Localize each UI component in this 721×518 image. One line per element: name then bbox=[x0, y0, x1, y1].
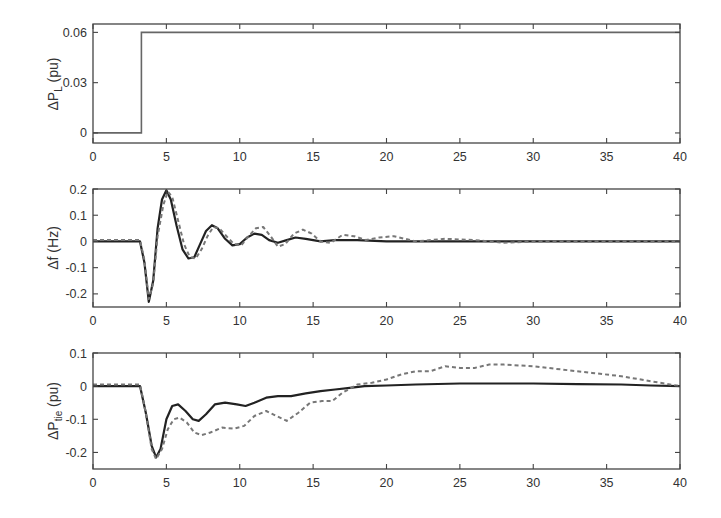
load-step-panel: ΔPL (pu) 051015202530354000.030.06 bbox=[45, 24, 687, 164]
x-tick-label: 20 bbox=[380, 314, 394, 328]
y-tick-label: 0.2 bbox=[70, 183, 87, 197]
series-solid bbox=[93, 384, 680, 458]
y-tick-label: -0.2 bbox=[65, 287, 87, 301]
y-axis-label: Δf (Hz) bbox=[45, 226, 61, 270]
series-solid bbox=[93, 190, 680, 301]
x-tick-label: 40 bbox=[673, 314, 687, 328]
x-tick-label: 25 bbox=[453, 150, 467, 164]
frequency-deviation-panel: Δf (Hz) 0510152025303540-0.2-0.100.10.2 bbox=[45, 183, 687, 329]
y-tick-label: 0.06 bbox=[63, 26, 87, 40]
figure: ΔPL (pu) 051015202530354000.030.06 Δf (H… bbox=[0, 0, 721, 518]
x-tick-label: 35 bbox=[600, 314, 614, 328]
series-load-step bbox=[93, 32, 680, 132]
x-tick-label: 10 bbox=[233, 314, 247, 328]
x-tick-label: 40 bbox=[673, 150, 687, 164]
x-tick-label: 15 bbox=[306, 476, 320, 490]
axes-box bbox=[93, 353, 680, 469]
y-tick-label: 0.03 bbox=[63, 76, 87, 90]
tie-line-power-panel: ΔPtie (pu) 0510152025303540-0.2-0.100.1 bbox=[45, 347, 687, 491]
y-tick-label: -0.1 bbox=[65, 413, 87, 427]
x-tick-label: 30 bbox=[526, 476, 540, 490]
y-tick-label: 0 bbox=[80, 235, 87, 249]
x-tick-label: 15 bbox=[306, 314, 320, 328]
series-dashed bbox=[93, 365, 680, 460]
x-tick-label: 20 bbox=[380, 476, 394, 490]
x-tick-label: 0 bbox=[90, 476, 97, 490]
x-tick-label: 10 bbox=[233, 476, 247, 490]
y-tick-label: 0 bbox=[80, 380, 87, 394]
x-tick-label: 25 bbox=[453, 314, 467, 328]
x-tick-label: 25 bbox=[453, 476, 467, 490]
x-tick-label: 5 bbox=[163, 314, 170, 328]
y-axis-label: ΔPL (pu) bbox=[45, 57, 64, 110]
x-tick-label: 5 bbox=[163, 150, 170, 164]
y-axis-label: ΔPtie (pu) bbox=[45, 382, 64, 440]
y-tick-label: 0.1 bbox=[70, 209, 87, 223]
x-tick-label: 35 bbox=[600, 476, 614, 490]
x-tick-label: 0 bbox=[90, 314, 97, 328]
x-tick-label: 30 bbox=[526, 314, 540, 328]
x-tick-label: 30 bbox=[526, 150, 540, 164]
x-tick-label: 20 bbox=[380, 150, 394, 164]
y-tick-label: -0.2 bbox=[65, 446, 87, 460]
x-tick-label: 10 bbox=[233, 150, 247, 164]
x-tick-label: 5 bbox=[163, 476, 170, 490]
x-tick-label: 35 bbox=[600, 150, 614, 164]
axes-box bbox=[93, 24, 680, 143]
y-tick-label: 0 bbox=[80, 126, 87, 140]
y-tick-label: 0.1 bbox=[70, 347, 87, 361]
y-tick-label: -0.1 bbox=[65, 261, 87, 275]
x-tick-label: 0 bbox=[90, 150, 97, 164]
x-tick-label: 15 bbox=[306, 150, 320, 164]
x-tick-label: 40 bbox=[673, 476, 687, 490]
